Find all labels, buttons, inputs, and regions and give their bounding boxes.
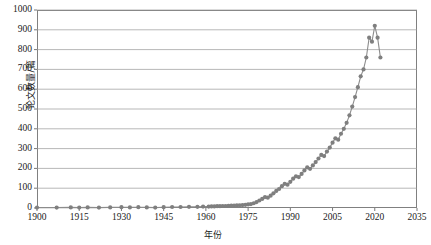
data-point xyxy=(136,205,140,209)
data-point xyxy=(353,95,357,99)
data-point xyxy=(339,132,343,136)
data-line xyxy=(37,26,380,208)
data-point xyxy=(370,40,374,44)
y-tick-label: 0 xyxy=(0,203,32,212)
x-tick-label: 1990 xyxy=(270,212,310,222)
x-tick-label: 2035 xyxy=(397,212,431,222)
x-tick-label: 1975 xyxy=(228,212,268,222)
data-point xyxy=(69,205,73,209)
data-point xyxy=(119,205,123,209)
data-point xyxy=(97,206,101,210)
data-point xyxy=(330,141,334,145)
data-point xyxy=(311,163,315,167)
y-tick-label: 600 xyxy=(0,84,32,93)
x-tick-label: 1960 xyxy=(186,212,226,222)
data-point xyxy=(153,206,157,210)
data-point xyxy=(170,205,174,209)
data-point xyxy=(350,105,354,109)
data-point xyxy=(361,67,365,71)
y-tick-label: 800 xyxy=(0,45,32,54)
data-point xyxy=(86,205,90,209)
y-tick-label: 200 xyxy=(0,163,32,172)
data-point xyxy=(299,172,303,176)
x-tick-label: 2020 xyxy=(355,212,395,222)
y-tick-label: 400 xyxy=(0,124,32,133)
y-tick-label: 1000 xyxy=(0,5,32,14)
x-tick-label: 2005 xyxy=(313,212,353,222)
data-point xyxy=(55,206,59,210)
data-point xyxy=(162,205,166,209)
data-point xyxy=(297,175,301,179)
data-point xyxy=(342,127,346,131)
data-point xyxy=(314,160,318,164)
x-tick-label: 1900 xyxy=(17,212,57,222)
data-point xyxy=(322,154,326,158)
x-axis-title: 年份 xyxy=(0,228,426,241)
x-tick-label: 1930 xyxy=(101,212,141,222)
data-point xyxy=(373,24,377,28)
data-point xyxy=(178,205,182,209)
data-point xyxy=(145,205,149,209)
data-point xyxy=(325,149,329,153)
y-tick-label: 300 xyxy=(0,144,32,153)
data-point xyxy=(347,113,351,117)
y-tick-label: 500 xyxy=(0,104,32,113)
y-tick-label: 100 xyxy=(0,183,32,192)
data-point xyxy=(187,205,191,209)
data-point xyxy=(35,206,39,210)
data-series-layer xyxy=(37,10,417,208)
data-point xyxy=(316,156,320,160)
y-tick-label: 900 xyxy=(0,25,32,34)
data-point xyxy=(201,205,205,209)
data-point xyxy=(345,121,349,125)
data-point xyxy=(375,36,379,40)
data-point xyxy=(288,180,292,184)
data-point xyxy=(77,206,81,210)
data-point xyxy=(308,167,312,171)
x-tick-label: 1945 xyxy=(144,212,184,222)
data-point xyxy=(328,146,332,150)
data-point xyxy=(364,55,368,59)
x-tick-label: 1915 xyxy=(59,212,99,222)
data-point xyxy=(356,85,360,89)
data-point xyxy=(367,36,371,40)
plot-area xyxy=(37,10,417,208)
data-point xyxy=(128,205,132,209)
data-point xyxy=(336,138,340,142)
data-point xyxy=(359,74,363,78)
data-point xyxy=(195,205,199,209)
data-point xyxy=(108,205,112,209)
data-point xyxy=(378,55,382,59)
y-tick-label: 700 xyxy=(0,64,32,73)
